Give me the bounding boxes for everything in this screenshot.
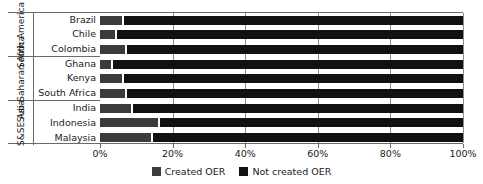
axis-tick-label-40: 40% [235, 148, 256, 160]
axis-tick-label-20: 20% [162, 148, 183, 160]
legend-label: Not created OER [252, 166, 331, 177]
bar-segment-not-created-oer [124, 74, 463, 83]
bar-segment-created-oer [100, 45, 125, 54]
stacked-bar-chart: South AmericaBrazilChileColombiaSub-Saha… [0, 0, 483, 184]
bar-segment-created-oer [100, 89, 125, 98]
bar-row-chile [100, 30, 463, 39]
bar-group [100, 57, 463, 101]
bar-group [100, 13, 463, 57]
category-label-indonesia: Indonesia [50, 117, 96, 129]
bar-segment-not-created-oer [160, 118, 463, 127]
group-label-sub-saharan-africa: Sub-Saharan Africa [8, 57, 34, 100]
bar-segment-not-created-oer [113, 60, 463, 69]
bar-group [100, 101, 463, 145]
bar-row-south-africa [100, 89, 463, 98]
bar-segment-not-created-oer [124, 16, 463, 25]
bar-segment-created-oer [100, 118, 158, 127]
category-group: S&SE AsiaIndiaIndonesiaMalaysia [8, 101, 100, 145]
bar-row-brazil [100, 16, 463, 25]
plot-frame: South AmericaBrazilChileColombiaSub-Saha… [8, 12, 463, 144]
group-label-s-se-asia: S&SE Asia [8, 101, 34, 145]
bar-segment-created-oer [100, 16, 122, 25]
axis-tick-label-100: 100% [449, 148, 476, 160]
bar-segment-not-created-oer [127, 45, 463, 54]
chart-legend: Created OERNot created OER [0, 166, 483, 177]
category-name-list: GhanaKenyaSouth Africa [34, 57, 100, 100]
category-group: Sub-Saharan AfricaGhanaKenyaSouth Africa [8, 57, 100, 101]
legend-swatch-icon [152, 167, 161, 176]
bar-segment-created-oer [100, 74, 122, 83]
bar-row-colombia [100, 45, 463, 54]
category-label-chile: Chile [72, 28, 96, 40]
bar-segment-created-oer [100, 133, 151, 142]
clipped-caption-text [8, 0, 428, 8]
bar-segment-created-oer [100, 60, 111, 69]
bar-row-malaysia [100, 133, 463, 142]
bar-segment-not-created-oer [127, 89, 463, 98]
bar-groups [100, 13, 463, 143]
category-name-list: BrazilChileColombia [34, 13, 100, 56]
legend-item-created-oer[interactable]: Created OER [152, 166, 226, 177]
bar-row-india [100, 104, 463, 113]
bar-segment-not-created-oer [133, 104, 463, 113]
bar-row-indonesia [100, 118, 463, 127]
bar-segment-not-created-oer [153, 133, 463, 142]
bar-segment-created-oer [100, 104, 131, 113]
legend-item-not-created-oer[interactable]: Not created OER [239, 166, 331, 177]
axis-tick-label-80: 80% [380, 148, 401, 160]
bar-segment-not-created-oer [117, 30, 463, 39]
legend-label: Created OER [165, 166, 226, 177]
group-label-text: S&SE Asia [16, 100, 26, 146]
bars-plot-area [100, 12, 463, 144]
gridline-100 [463, 13, 464, 143]
axis-tick-label-60: 60% [307, 148, 328, 160]
legend-swatch-icon [239, 167, 248, 176]
value-axis: 0%20%40%60%80%100% [100, 144, 463, 160]
category-label-south-africa: South Africa [38, 87, 96, 99]
bar-segment-created-oer [100, 30, 115, 39]
category-label-brazil: Brazil [69, 14, 96, 26]
category-label-ghana: Ghana [65, 58, 96, 70]
category-label-colombia: Colombia [51, 43, 96, 55]
category-name-list: IndiaIndonesiaMalaysia [34, 101, 100, 145]
category-label-malaysia: Malaysia [54, 132, 96, 144]
category-label-kenya: Kenya [67, 72, 96, 84]
bar-row-ghana [100, 60, 463, 69]
bar-row-kenya [100, 74, 463, 83]
axis-tick-label-0: 0% [92, 148, 107, 160]
category-axis: South AmericaBrazilChileColombiaSub-Saha… [8, 12, 100, 144]
category-label-india: India [73, 102, 96, 114]
